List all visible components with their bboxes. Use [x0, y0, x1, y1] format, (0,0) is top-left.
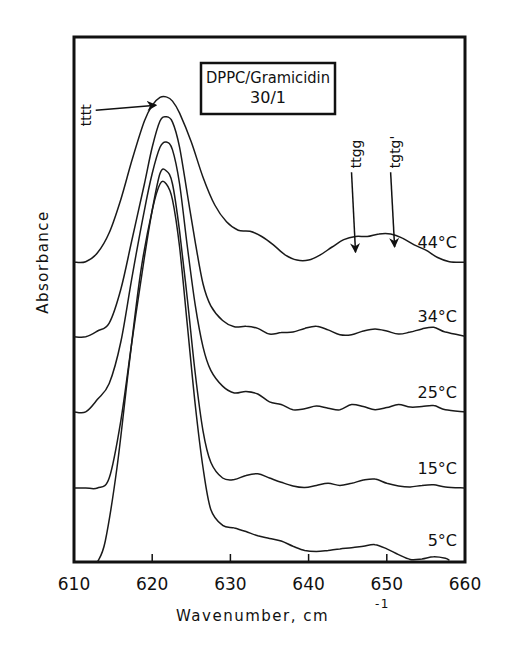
y-axis-title: Absorbance — [34, 210, 52, 314]
inset-box: DPPC/Gramicidin 30/1 — [201, 63, 335, 114]
annotation-tgtg: tgtg' — [387, 136, 403, 247]
annotation-label: ttgg — [348, 139, 364, 168]
annotation-label: tttt — [78, 104, 94, 126]
series-line-5c — [98, 181, 450, 562]
series-label: 25°C — [417, 383, 457, 402]
x-tick-label: 610 — [58, 574, 90, 594]
plot-frame — [74, 37, 465, 562]
x-axis-title-superscript: -1 — [375, 597, 390, 611]
x-tick-label: 660 — [449, 574, 481, 594]
annotation-arrow — [352, 172, 356, 252]
series-labels: 44°C34°C25°C15°C5°C — [417, 233, 457, 550]
x-tick-label: 640 — [292, 574, 324, 594]
x-tick-label: 650 — [371, 574, 403, 594]
annotation-arrow — [96, 105, 156, 110]
x-axis-title: Wavenumber, cm — [176, 607, 329, 625]
series-label: 5°C — [428, 531, 457, 550]
inset-box-line1: DPPC/Gramicidin — [206, 68, 330, 87]
annotation-ttgg: ttgg — [348, 139, 364, 252]
series-label: 34°C — [417, 307, 457, 326]
inset-box-line2: 30/1 — [250, 88, 286, 107]
x-tick-label: 620 — [136, 574, 168, 594]
annotation-arrow — [391, 172, 395, 247]
spectra-chart: 610620630640650660 44°C34°C25°C15°C5°C A… — [0, 0, 511, 654]
series-line-25c — [74, 142, 465, 413]
series-line-34c — [74, 117, 465, 338]
series-label: 15°C — [417, 459, 457, 478]
series-label: 44°C — [417, 233, 457, 252]
x-tick-label: 630 — [214, 574, 246, 594]
annotation-label: tgtg' — [387, 136, 403, 169]
x-axis-tick-labels: 610620630640650660 — [58, 574, 481, 594]
spectra-curves — [74, 96, 465, 562]
